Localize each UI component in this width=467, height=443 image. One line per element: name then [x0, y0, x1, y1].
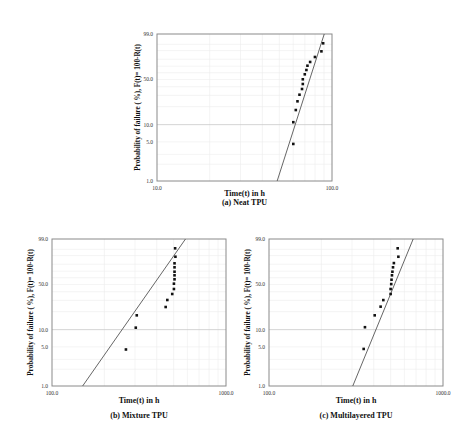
y-tick-label: 5.0 [258, 344, 265, 350]
y-tick-label: 1.0 [258, 383, 265, 389]
data-point [362, 348, 365, 351]
data-point [382, 299, 385, 302]
data-point [373, 314, 376, 317]
data-point [364, 326, 367, 329]
grid-lines [269, 239, 443, 386]
y-axis-label: Probability of failure ( %), F(t)= 100-R… [244, 249, 252, 376]
data-point [389, 293, 392, 296]
data-point [392, 266, 395, 269]
data-point [397, 255, 400, 258]
data-points [362, 247, 399, 350]
x-tick-label: 100.0 [263, 390, 276, 396]
chart-caption: (c) Multilayered TPU [319, 411, 392, 420]
y-tick-label: 99.0 [255, 236, 265, 242]
chart-c-svg: 1.05.010.050.099.0100.01000.0Time(t) in … [0, 0, 467, 443]
data-point [390, 278, 393, 281]
plot-frame [269, 239, 443, 386]
x-tick-label: 1000.0 [435, 390, 450, 396]
y-tick-label: 50.0 [255, 281, 265, 287]
data-point [389, 288, 392, 291]
x-axis-label: Time(t) in h [336, 396, 377, 405]
data-point [391, 274, 394, 277]
data-point [390, 283, 393, 286]
y-tick-label: 10.0 [255, 327, 265, 333]
data-point [396, 247, 399, 250]
data-point [393, 262, 396, 265]
chart-panel-c: 1.05.010.050.099.0100.01000.0Time(t) in … [0, 0, 467, 443]
data-point [379, 305, 382, 308]
data-point [391, 270, 394, 273]
